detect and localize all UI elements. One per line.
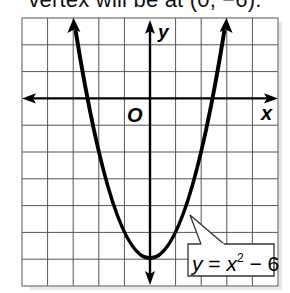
- equation-label: y = x2 − 6: [190, 251, 279, 275]
- coordinate-graph: y x O y = x2 − 6: [0, 0, 290, 293]
- origin-label: O: [127, 104, 143, 126]
- x-axis-label: x: [260, 102, 273, 124]
- y-axis-label: y: [157, 21, 170, 42]
- grid-shadow: [279, 22, 282, 288]
